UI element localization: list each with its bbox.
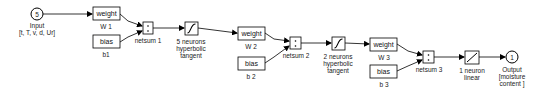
netsum-label-3: netsum 3 (416, 66, 443, 73)
netsum-block-3[interactable] (423, 51, 434, 63)
input-port-symbol: 5 (35, 11, 39, 18)
tansig-icon[interactable] (332, 37, 345, 50)
weight-label-2: W 2 (245, 43, 257, 50)
transfer-label-2-line2: hyperbolic (323, 60, 353, 67)
connector-tansig2-w3 (345, 43, 369, 44)
weight-box-text-1: weight (93, 7, 120, 20)
bias-box-text-3: bias (370, 65, 397, 78)
transfer-label-2-line1: 2 neurons (324, 53, 353, 60)
weight-label-3: W 3 (378, 54, 390, 61)
transfer-label-1-line1: 5 neurons (177, 38, 206, 45)
output-sublabel-2: content ] (500, 80, 525, 87)
bias-box-text-2: bias (238, 57, 265, 70)
connector-tansig1-w2 (198, 28, 237, 33)
weight-label-1: W 1 (100, 23, 112, 30)
transfer-label-1-line2: hyperbolic (176, 45, 206, 52)
output-port-symbol: 1 (510, 54, 514, 61)
connector-w2-netsum2 (265, 33, 289, 41)
transfer-label-2-line3: tangent (327, 67, 349, 74)
weight-box-text-3: weight (370, 38, 397, 51)
transfer-label-1-line3: tangent (180, 52, 202, 59)
netsum-label-2: netsum 2 (283, 52, 310, 59)
weight-box-text-2: weight (238, 27, 265, 40)
tansig-icon[interactable] (185, 22, 198, 35)
input-sublabel: [t, T, v, d, Ur] (19, 29, 55, 36)
output-label: Output (502, 66, 522, 73)
bias-label-3: b 3 (379, 81, 388, 88)
netsum-block-1[interactable] (143, 22, 153, 34)
purelin-icon[interactable] (465, 51, 479, 64)
bias-label-2: b 2 (246, 73, 255, 80)
output-sublabel-1: [moisture (499, 73, 526, 80)
bias-box-text-1: bias (93, 35, 120, 48)
netsum-label-1: netsum 1 (135, 37, 162, 44)
connector-w3-netsum3 (397, 44, 422, 55)
bias-label-1: b1 (102, 51, 109, 58)
connector-w1-netsum1 (120, 14, 142, 26)
input-label: Input (30, 22, 44, 29)
transfer-label-3-line2: linear (464, 74, 480, 81)
transfer-label-3-line1: 1 neuron (459, 67, 485, 74)
netsum-block-2[interactable] (290, 37, 301, 49)
